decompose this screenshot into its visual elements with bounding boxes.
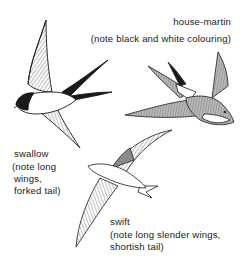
swift-note-line-1: (note long slender wings, xyxy=(110,229,220,241)
swift-note-line-2: shortish tail) xyxy=(110,241,164,253)
bird-identification-figure: house-martin (note black and white colou… xyxy=(0,0,242,261)
swallow-note-line-3: forked tail) xyxy=(14,185,61,197)
swallow-note-line-1: (note long xyxy=(12,161,56,173)
house-martin-note-label: (note black and white colouring) xyxy=(91,33,231,45)
swallow-note-line-2: wings, xyxy=(14,173,42,185)
swift-name-label: swift xyxy=(110,216,130,228)
house-martin-illustration xyxy=(125,52,234,125)
swallow-name-label: swallow xyxy=(14,148,49,160)
house-martin-name-label: house-martin xyxy=(173,16,231,28)
